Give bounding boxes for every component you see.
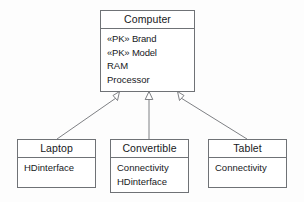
attribute-row: Processor [107,73,194,87]
attribute-text: Processor [107,74,150,85]
class-header-convertible: Convertible [111,140,188,158]
class-box-tablet[interactable]: Tablet Connectivity [208,139,287,188]
class-header-tablet: Tablet [209,140,286,158]
generalization-line-tablet [181,98,247,139]
generalization-arrowhead-tablet [178,92,185,101]
attribute-row: RAM [107,59,194,73]
class-name-convertible: Convertible [122,143,176,154]
generalization-arrowhead-convertible [145,92,153,100]
attribute-text: RAM [107,60,128,71]
class-box-laptop[interactable]: Laptop HDinterface [17,139,96,188]
class-header-laptop: Laptop [18,140,95,158]
attribute-row: HDinterface [117,175,188,189]
class-attributes-convertible: Connectivity HDinterface [111,158,188,188]
attribute-text: Connectivity [215,162,267,173]
attribute-row: «PK» Model [107,46,194,60]
attribute-text: «PK» Brand [107,33,156,44]
attribute-row: «PK» Brand [107,32,194,46]
attribute-text: Connectivity [117,162,169,173]
attribute-row: HDinterface [24,161,95,175]
class-attributes-tablet: Connectivity [209,158,286,175]
class-attributes-laptop: HDinterface [18,158,95,175]
attribute-row: Connectivity [117,161,188,175]
attribute-text: HDinterface [117,176,167,187]
uml-class-diagram: Computer «PK» Brand «PK» Model RAM Proce… [0,0,304,202]
class-name-laptop: Laptop [40,143,73,154]
attribute-text: HDinterface [24,162,74,173]
class-box-computer[interactable]: Computer «PK» Brand «PK» Model RAM Proce… [100,10,195,92]
class-box-convertible[interactable]: Convertible Connectivity HDinterface [110,139,189,193]
class-name-tablet: Tablet [233,143,262,154]
class-header-computer: Computer [101,11,194,29]
class-name-computer: Computer [124,14,171,25]
attribute-text: «PK» Model [107,47,157,58]
class-attributes-computer: «PK» Brand «PK» Model RAM Processor [101,29,194,86]
generalization-arrowhead-laptop [113,92,120,101]
generalization-line-laptop [57,98,116,139]
attribute-row: Connectivity [215,161,286,175]
